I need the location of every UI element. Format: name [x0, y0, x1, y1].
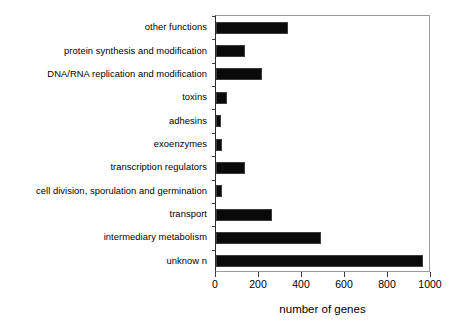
- category-tick: [212, 133, 216, 134]
- bar: [216, 162, 245, 174]
- category-tick: [212, 226, 216, 227]
- bar: [216, 185, 222, 197]
- bar: [216, 92, 227, 104]
- category-tick: [212, 86, 216, 87]
- category-tick: [212, 250, 216, 251]
- x-axis-title: number of genes: [215, 302, 430, 316]
- bar: [216, 115, 221, 127]
- category-label: protein synthesis and modification: [0, 45, 207, 56]
- x-axis-tick: [344, 272, 345, 277]
- x-axis-tick: [258, 272, 259, 277]
- plot-area: [215, 15, 430, 272]
- value-axis: 02004006008001000: [215, 272, 430, 298]
- category-label: intermediary metabolism: [0, 231, 207, 242]
- x-axis-tick-label: 400: [292, 278, 310, 290]
- category-label: transport: [0, 208, 207, 219]
- x-axis-tick-label: 0: [212, 278, 218, 290]
- x-axis-tick: [215, 272, 216, 277]
- category-tick: [212, 156, 216, 157]
- category-tick: [212, 39, 216, 40]
- x-axis-tick-label: 600: [335, 278, 353, 290]
- category-tick: [212, 109, 216, 110]
- category-label: unknow n: [0, 255, 207, 266]
- x-axis-tick-label: 200: [249, 278, 267, 290]
- category-label: toxins: [0, 91, 207, 102]
- x-axis-tick: [430, 272, 431, 277]
- x-axis-tick: [301, 272, 302, 277]
- bar: [216, 139, 222, 151]
- category-label: adhesins: [0, 115, 207, 126]
- category-label: transcription regulators: [0, 161, 207, 172]
- bar: [216, 68, 262, 80]
- bar: [216, 255, 423, 267]
- category-tick: [212, 180, 216, 181]
- x-axis-tick-label: 1000: [418, 278, 441, 290]
- category-axis: other functionsprotein synthesis and mod…: [0, 15, 207, 272]
- x-axis-tick-label: 800: [378, 278, 396, 290]
- bar: [216, 232, 321, 244]
- category-tick: [212, 16, 216, 17]
- category-tick: [212, 63, 216, 64]
- category-label: other functions: [0, 21, 207, 32]
- category-label: exoenzymes: [0, 138, 207, 149]
- bar: [216, 45, 245, 57]
- bar: [216, 209, 272, 221]
- bar-chart-figure: other functionsprotein synthesis and mod…: [0, 0, 458, 335]
- bar: [216, 22, 288, 34]
- category-label: cell division, sporulation and germinati…: [0, 185, 207, 196]
- x-axis-tick: [387, 272, 388, 277]
- category-label: DNA/RNA replication and modification: [0, 68, 207, 79]
- category-tick: [212, 203, 216, 204]
- bars-layer: [216, 16, 429, 271]
